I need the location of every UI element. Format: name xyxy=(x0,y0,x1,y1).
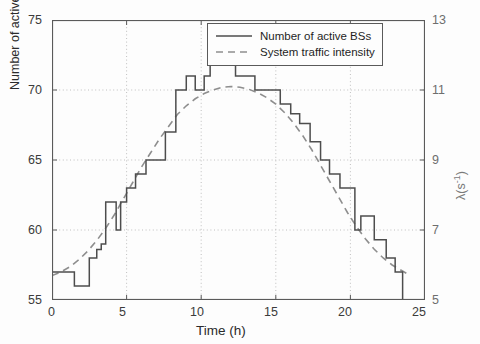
legend-label-active-bss: Number of active BSs xyxy=(260,30,371,42)
y-right-axis-title: λ(s-1) xyxy=(452,171,468,200)
legend-item-traffic-intensity: System traffic intensity xyxy=(214,44,375,60)
y-tick-label-55: 55 xyxy=(28,293,42,307)
paren-close: ) xyxy=(454,171,468,175)
legend-dashed-line-icon xyxy=(214,47,254,57)
legend-item-active-bss: Number of active BSs xyxy=(214,28,375,44)
x-tick-label-5: 5 xyxy=(119,305,126,319)
exponent-minus-one: -1 xyxy=(452,175,462,183)
y-tick-label-70: 70 xyxy=(28,83,42,97)
x-tick-label-0: 0 xyxy=(48,305,55,319)
y-tick-label-60: 60 xyxy=(28,223,42,237)
yr-tick-label-7: 7 xyxy=(432,223,439,237)
legend-solid-line-icon xyxy=(214,31,254,41)
yr-tick-label-5: 5 xyxy=(432,293,439,307)
legend-box: Number of active BSs System traffic inte… xyxy=(207,23,383,66)
legend-label-traffic-intensity: System traffic intensity xyxy=(260,46,375,58)
lambda-symbol: λ(s xyxy=(454,183,468,200)
x-axis-title: Time (h) xyxy=(196,323,246,338)
plot-area: Number of active BSs System traffic inte… xyxy=(52,20,425,300)
x-tick-label-10: 10 xyxy=(190,305,204,319)
x-tick-label-15: 15 xyxy=(264,305,278,319)
y-tick-label-65: 65 xyxy=(28,153,42,167)
figure-container: Number of active BSs 75 70 65 60 55 13 1… xyxy=(0,0,480,344)
yr-tick-label-9: 9 xyxy=(432,153,439,167)
y-tick-label-75: 75 xyxy=(28,13,42,27)
x-tick-label-25: 25 xyxy=(412,305,426,319)
yr-tick-label-11: 11 xyxy=(432,83,445,97)
y-axis-title: Number of active BSs xyxy=(8,74,22,90)
x-tick-label-20: 20 xyxy=(338,305,352,319)
yr-tick-label-13: 13 xyxy=(432,13,446,27)
